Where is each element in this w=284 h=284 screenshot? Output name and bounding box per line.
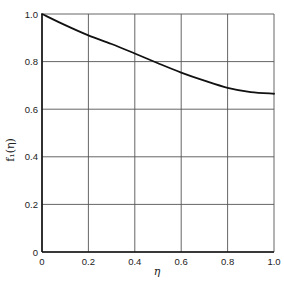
- x-tick-label: 0.4: [128, 256, 141, 267]
- x-tick-label: 0.6: [175, 256, 188, 267]
- line-chart: 00.20.40.60.81.0 00.20.40.60.81.0 η f₁(η…: [0, 0, 284, 284]
- x-axis-label: η: [154, 265, 161, 278]
- data-curve: [42, 14, 274, 94]
- y-axis-label: f₁(η): [4, 138, 17, 162]
- y-tick-label: 0.8: [25, 56, 38, 67]
- y-tick-label: 0.2: [25, 199, 38, 210]
- x-tick-label: 0: [39, 256, 44, 267]
- y-tick-label: 1.0: [25, 9, 38, 20]
- x-tick-label: 1.0: [267, 256, 280, 267]
- grid-lines: [42, 14, 274, 252]
- y-tick-label: 0: [33, 247, 38, 258]
- y-tick-labels: 00.20.40.60.81.0: [25, 9, 38, 258]
- y-tick-label: 0.6: [25, 104, 38, 115]
- y-tick-label: 0.4: [25, 151, 38, 162]
- x-tick-label: 0.2: [82, 256, 95, 267]
- axes: [42, 14, 274, 252]
- x-tick-label: 0.8: [221, 256, 234, 267]
